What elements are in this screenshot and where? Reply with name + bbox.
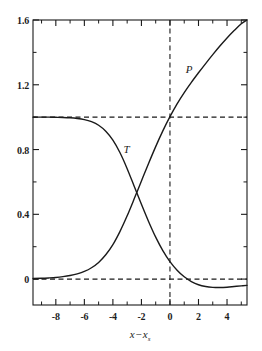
x-axis-title: x−xs [130,328,151,343]
y-tick-label: 0.4 [17,209,29,220]
plot-canvas [0,0,262,351]
chart-figure: 00.40.81.21.6 -8-6-4-2024 TP x−xs [0,0,262,351]
series-line-P [33,20,247,278]
x-tick-label: -2 [137,311,145,322]
x-tick-label: 0 [168,311,173,322]
data-series [33,20,247,288]
x-tick-label: -8 [52,311,60,322]
y-tick-label: 1.2 [17,79,29,90]
y-tick-label: 1.6 [17,15,29,26]
x-tick-label: 2 [196,311,201,322]
series-line-T [33,117,247,287]
x-axis-title-subscript: s [148,335,151,343]
y-tick-label: 0 [24,274,29,285]
x-axis-title-operator: − [135,328,143,340]
x-tick-label: 4 [225,311,230,322]
y-tick-label: 0.8 [17,144,29,155]
axes-border [33,20,247,305]
x-tick-label: -4 [109,311,117,322]
p-curve-label: P [186,63,193,75]
x-tick-label: -6 [80,311,88,322]
reference-lines [33,20,247,305]
minor-tick-marks [33,20,247,305]
tau-curve-label: T [123,143,129,155]
plot-frame [33,20,247,305]
major-tick-marks [33,20,247,305]
